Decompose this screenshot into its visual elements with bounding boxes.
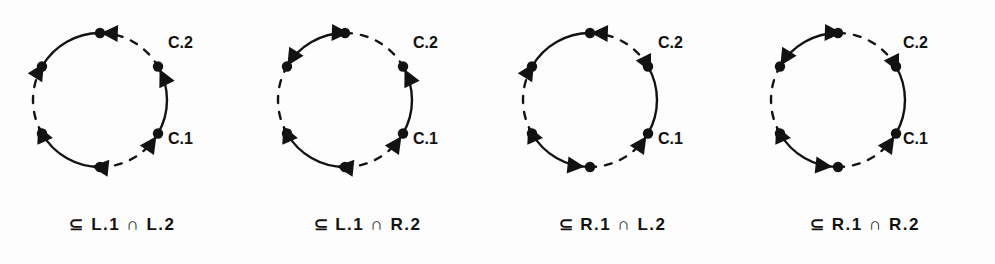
arc-label-c1-panel-3: C.1 [658, 130, 683, 148]
cycle-node [527, 61, 537, 71]
cycle-arc-solid [648, 67, 657, 134]
cycle-node [527, 128, 537, 138]
arc-label-c2-panel-4: C.2 [903, 34, 928, 52]
cycle-node [37, 61, 47, 71]
panel-caption-4: ⊆ R.1 ∩ R.2 [735, 214, 995, 235]
cycle-diagram-4 [735, 0, 995, 214]
cycle-diagram-1 [0, 0, 245, 214]
cycle-node [891, 61, 901, 71]
arc-label-c2-panel-2: C.2 [413, 34, 438, 52]
cycle-node [153, 61, 163, 71]
cycle-arc-dashed [100, 33, 158, 67]
cycle-node [833, 28, 843, 38]
panel-caption-3: ⊆ R.1 ∩ L.2 [490, 214, 735, 235]
cycle-arrowhead [159, 69, 174, 88]
cycle-arrowhead [815, 157, 833, 174]
cycle-node [282, 61, 292, 71]
cycle-node [643, 128, 653, 138]
cycle-diagram-2 [245, 0, 490, 214]
cycle-arc-dashed [278, 67, 287, 134]
cycle-node [153, 128, 163, 138]
cycle-node [95, 162, 105, 172]
cycle-arc-dashed [771, 67, 780, 134]
cycle-node [585, 162, 595, 172]
cycle-arrowhead [385, 136, 402, 155]
cycle-node [398, 61, 408, 71]
cycle-node [585, 28, 595, 38]
cycle-panel-3: C.2 C.1 ⊆ R.1 ∩ L.2 [490, 0, 735, 264]
cycle-node [37, 128, 47, 138]
cycle-arc-dashed [345, 33, 403, 67]
cycle-node [398, 128, 408, 138]
arc-label-c1-panel-1: C.1 [168, 130, 193, 148]
cycle-diagram-3 [490, 0, 735, 214]
cycle-panel-4: C.2 C.1 ⊆ R.1 ∩ R.2 [735, 0, 995, 264]
cycle-node [775, 61, 785, 71]
cycle-panel-1: C.2 C.1 ⊆ L.1 ∩ L.2 [0, 0, 245, 264]
cycle-arrowhead [404, 69, 419, 88]
arc-label-c1-panel-4: C.1 [903, 130, 928, 148]
cycle-arc-solid [532, 33, 590, 67]
panel-caption-1: ⊆ L.1 ∩ L.2 [0, 214, 245, 235]
cycle-panel-2: C.2 C.1 ⊆ L.1 ∩ R.2 [245, 0, 490, 264]
cycle-arrowhead [567, 157, 585, 174]
arc-label-c2-panel-1: C.2 [168, 34, 193, 52]
cycle-node [95, 28, 105, 38]
arc-label-c1-panel-2: C.1 [413, 130, 438, 148]
cycle-node [643, 61, 653, 71]
cycle-node [340, 162, 350, 172]
cycle-arrowhead [140, 136, 157, 155]
cycle-node [282, 128, 292, 138]
cycle-arrowhead [630, 136, 647, 155]
arc-label-c2-panel-3: C.2 [658, 34, 683, 52]
panel-caption-2: ⊆ L.1 ∩ R.2 [245, 214, 490, 235]
cycle-node [891, 128, 901, 138]
cycle-node [775, 128, 785, 138]
figure-root: C.2 C.1 ⊆ L.1 ∩ L.2 C.2 C.1 ⊆ L.1 ∩ R.2 … [0, 0, 995, 264]
cycle-node [340, 28, 350, 38]
cycle-node [833, 162, 843, 172]
cycle-arc-solid [42, 33, 100, 67]
cycle-arc-solid [896, 67, 905, 134]
cycle-arrowhead [878, 136, 895, 155]
